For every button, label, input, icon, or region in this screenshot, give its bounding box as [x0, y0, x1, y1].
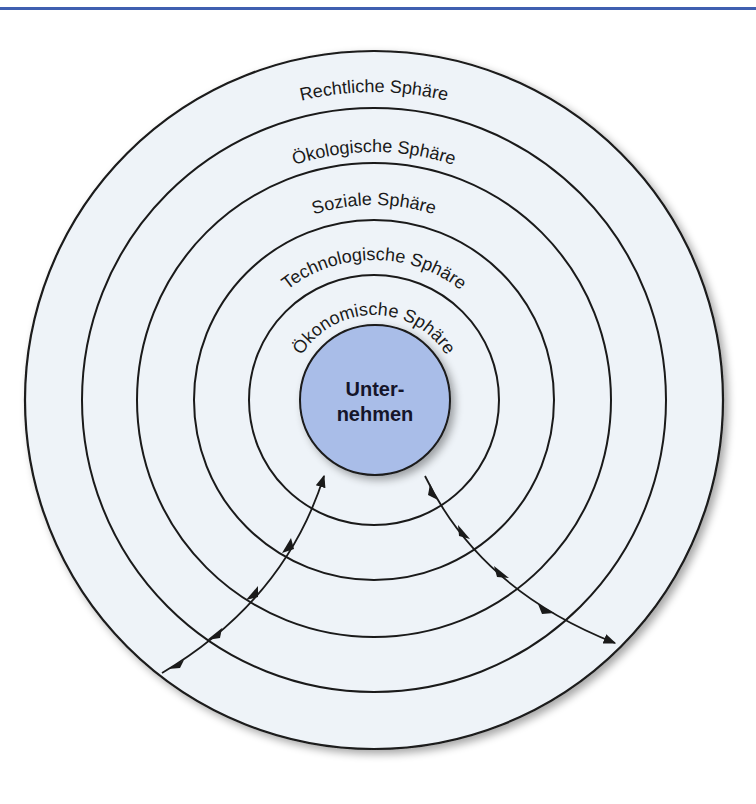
sphere-diagram: Rechtliche Sphäre Ökologische Sphäre Soz…	[0, 0, 756, 804]
company-circle	[300, 325, 450, 475]
company-label-line2: nehmen	[337, 403, 414, 425]
company-label-line1: Unter-	[346, 378, 405, 400]
